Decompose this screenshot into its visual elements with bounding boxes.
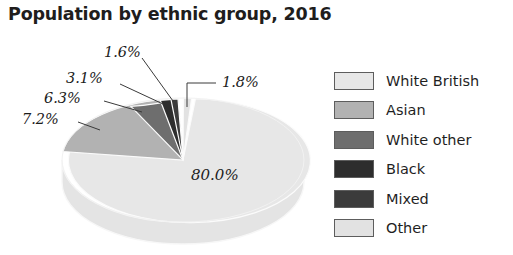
label-asian: 7.2% (22, 111, 59, 127)
leader-line-mixed (142, 58, 173, 101)
legend-swatch-mixed (334, 190, 374, 208)
legend-swatch-white-other (334, 131, 374, 149)
pie-chart: 1.6% 3.1% 6.3% 7.2% 1.8% 80.0% (0, 0, 330, 255)
legend-item-mixed[interactable]: Mixed (334, 184, 509, 214)
legend-label-white-british: White British (386, 73, 479, 89)
label-mixed: 1.6% (104, 44, 141, 60)
label-white-other: 6.3% (44, 90, 81, 106)
legend-swatch-white-british (334, 72, 374, 90)
legend-swatch-black (334, 160, 374, 178)
legend-swatch-asian (334, 101, 374, 119)
label-white-british: 80.0% (191, 166, 239, 184)
label-other: 1.8% (222, 74, 259, 90)
chart-page: Population by ethnic group, 2016 (0, 0, 513, 255)
legend-item-white-other[interactable]: White other (334, 125, 509, 155)
leader-line-black (120, 84, 163, 104)
chart-legend: White British Asian White other Black Mi… (334, 66, 509, 243)
legend-item-black[interactable]: Black (334, 155, 509, 185)
legend-label-other: Other (386, 220, 427, 236)
legend-label-asian: Asian (386, 102, 426, 118)
label-black: 3.1% (66, 70, 103, 86)
legend-item-asian[interactable]: Asian (334, 96, 509, 126)
pie-slices (63, 98, 311, 223)
pie-chart-svg (0, 0, 330, 255)
legend-label-mixed: Mixed (386, 191, 429, 207)
legend-item-white-british[interactable]: White British (334, 66, 509, 96)
legend-label-white-other: White other (386, 132, 471, 148)
legend-label-black: Black (386, 161, 425, 177)
legend-item-other[interactable]: Other (334, 214, 509, 244)
legend-swatch-other (334, 219, 374, 237)
